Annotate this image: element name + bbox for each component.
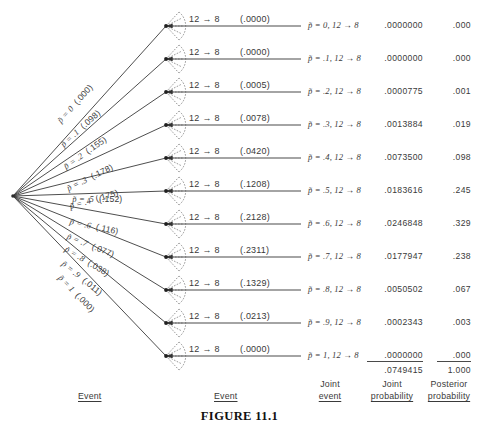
root-node [11, 194, 15, 198]
joint-event-8: p̃ = .8, 12 → 8 [308, 285, 361, 294]
posterior-probability-8: .067 [437, 285, 471, 294]
chance-node-7 [164, 243, 301, 271]
posterior-probability-3: .019 [437, 120, 471, 129]
joint-probability-7: .0177947 [367, 252, 423, 261]
joint-event-10: p̃ = 1, 12 → 8 [308, 351, 359, 360]
sample-event-0: 12 → 8 [189, 15, 220, 24]
likelihood-3: (.0078) [240, 114, 270, 123]
joint-event-0: p̃ = 0, 12 → 8 [308, 21, 359, 30]
joint-probability-3: .0013884 [367, 120, 423, 129]
joint-probability-9: .0002343 [367, 318, 423, 327]
joint-event-3: p̃ = .3, 12 → 8 [308, 120, 361, 129]
joint-probability-5: .0183616 [367, 186, 423, 195]
joint-probability-6: .0246848 [367, 219, 423, 228]
chance-node-4 [164, 144, 301, 172]
column-header-joint-prob-line1: Joint [361, 380, 423, 389]
chance-node-3 [164, 111, 301, 139]
chance-node-0 [164, 12, 301, 40]
likelihood-1: (.0000) [240, 48, 270, 57]
chance-node-10 [164, 342, 301, 370]
prior-prob-2: (.155) [83, 134, 108, 156]
likelihood-8: (.1329) [240, 279, 270, 288]
prior-prob-5: (.152) [99, 194, 122, 204]
sample-event-1: 12 → 8 [189, 48, 220, 57]
chance-node-9 [164, 309, 301, 337]
sample-event-8: 12 → 8 [189, 279, 220, 288]
column-header-posterior-line2: probability [420, 392, 478, 401]
posterior-probability-5: .245 [437, 186, 471, 195]
joint-probability-4: .0073500 [367, 153, 423, 162]
column-header-event-1: Event [78, 392, 102, 401]
likelihood-0: (.0000) [240, 15, 270, 24]
joint-probability-1: .0000000 [367, 54, 423, 63]
prior-prob-1: (.098) [78, 108, 102, 131]
posterior-probability-1: .000 [437, 54, 471, 63]
column-header-joint-event-line1: Joint [310, 380, 350, 389]
joint-event-4: p̃ = .4, 12 → 8 [308, 153, 361, 162]
joint-event-7: p̃ = .7, 12 → 8 [308, 252, 361, 261]
chance-node-1 [164, 45, 301, 73]
posterior-probability-total: 1.000 [437, 366, 471, 375]
likelihood-10: (.0000) [240, 345, 270, 354]
joint-event-6: p̃ = .6, 12 → 8 [308, 219, 361, 228]
sample-event-2: 12 → 8 [189, 81, 220, 90]
posterior-probability-6: .329 [437, 219, 471, 228]
column-header-event-2: Event [214, 392, 238, 401]
sample-event-4: 12 → 8 [189, 147, 220, 156]
sample-event-10: 12 → 8 [189, 345, 220, 354]
likelihood-5: (.1208) [240, 180, 270, 189]
sample-event-7: 12 → 8 [189, 246, 220, 255]
sample-event-5: 12 → 8 [189, 180, 220, 189]
chance-node-2 [164, 78, 301, 106]
sample-event-3: 12 → 8 [189, 114, 220, 123]
joint-probability-8: .0050502 [367, 285, 423, 294]
posterior-probability-7: .238 [437, 252, 471, 261]
joint-probability-10: .0000000 [367, 351, 423, 362]
joint-event-9: p̃ = .9, 12 → 8 [308, 318, 361, 327]
likelihood-9: (.0213) [240, 312, 270, 321]
sample-event-6: 12 → 8 [189, 213, 220, 222]
posterior-probability-4: .098 [437, 153, 471, 162]
sample-event-9: 12 → 8 [189, 312, 220, 321]
posterior-probability-2: .001 [437, 87, 471, 96]
likelihood-2: (.0005) [240, 81, 270, 90]
figure-container: p̃ = 0 (.000) p̃ = .1 (.098) p̃ = .2 (.1… [0, 0, 479, 434]
posterior-probability-10: .000 [437, 351, 471, 362]
joint-event-1: p̃ = .1, 12 → 8 [308, 54, 361, 63]
joint-probability-total: .0749415 [367, 366, 423, 375]
prior-label-5-text: p̃ = .5 [72, 194, 94, 204]
likelihood-7: (.2311) [240, 246, 269, 255]
chance-nodes [164, 12, 301, 370]
posterior-probability-0: .000 [437, 21, 471, 30]
joint-probability-0: .0000000 [367, 21, 423, 30]
joint-event-5: p̃ = .5, 12 → 8 [308, 186, 361, 195]
likelihood-4: (.0420) [240, 147, 270, 156]
chance-node-6 [164, 210, 301, 238]
prior-prob-3: (.178) [89, 162, 114, 181]
column-header-joint-prob-line2: probability [361, 392, 423, 401]
column-header-posterior-line1: Posterior [420, 380, 478, 389]
joint-probability-2: .0000775 [367, 87, 423, 96]
column-header-joint-event-line2: event [310, 392, 350, 401]
joint-event-2: p̃ = .2, 12 → 8 [308, 87, 361, 96]
figure-caption: FIGURE 11.1 [0, 409, 479, 424]
chance-node-5 [164, 177, 301, 205]
prior-prob-10: (.000) [74, 290, 97, 314]
likelihood-6: (.2128) [240, 213, 270, 222]
posterior-probability-9: .003 [437, 318, 471, 327]
chance-node-8 [164, 276, 301, 304]
